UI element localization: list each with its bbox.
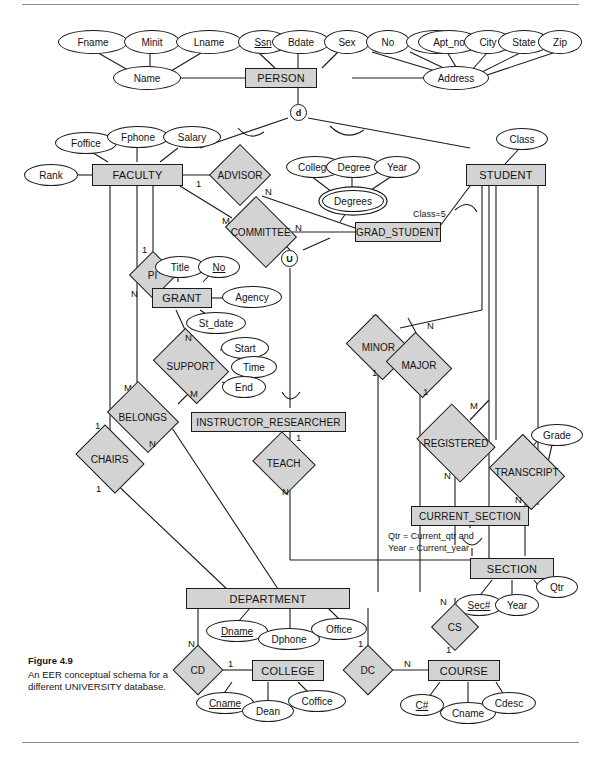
attribute-no: No	[366, 30, 410, 54]
cardinality-dc-dept: 1	[358, 638, 363, 649]
attribute-dean: Dean	[242, 700, 294, 722]
entity-person: PERSON	[245, 68, 317, 88]
cardinality-chairs-dept: 1	[96, 483, 101, 494]
cardinality-cs-course: 1	[446, 644, 451, 655]
union-category-circle: U	[281, 250, 298, 267]
attribute-name: Name	[113, 66, 181, 90]
cardinality-teach-section: N	[282, 486, 289, 497]
cardinality-transcript-bottom: N	[515, 494, 522, 505]
attribute-minit: Minit	[124, 30, 180, 54]
attribute-class: Class	[496, 128, 548, 150]
attribute-grant-no: No	[198, 256, 240, 278]
cardinality-advisor-faculty: 1	[196, 178, 201, 189]
figure-number: Figure 4.9	[28, 655, 198, 668]
attribute-zip: Zip	[538, 30, 582, 54]
attribute-fname: Fname	[58, 30, 128, 54]
attribute-rank: Rank	[24, 164, 78, 186]
constraint-year-line: Year = Current_year	[388, 542, 474, 554]
disjoint-specialization-circle: d	[290, 104, 307, 121]
cardinality-registered-top: M	[470, 400, 478, 411]
figure-caption-text: An EER conceptual schema for a different…	[28, 669, 168, 693]
attribute-cdesc: Cdesc	[482, 692, 536, 714]
cardinality-major-dept: 1	[423, 386, 428, 397]
cardinality-cd-college: 1	[228, 658, 233, 669]
cardinality-cs-section: N	[440, 596, 447, 607]
attribute-fphone: Fphone	[107, 126, 169, 148]
attribute-salary: Salary	[163, 126, 221, 148]
attribute-grade: Grade	[531, 424, 583, 446]
cardinality-teach-instres: 1	[296, 432, 301, 443]
cardinality-committee-grad: N	[295, 222, 302, 233]
attribute-office: Office	[311, 618, 367, 640]
cardinality-dc-course: N	[404, 658, 411, 669]
figure-caption: Figure 4.9 An EER conceptual schema for …	[28, 655, 198, 694]
attribute-lname: Lname	[176, 30, 242, 54]
cardinality-committee-faculty: M	[222, 215, 230, 226]
entity-section: SECTION	[470, 558, 554, 579]
entity-grant: GRANT	[152, 288, 212, 308]
cardinality-pi-grant: N	[131, 288, 138, 299]
constraint-current-section: Qtr = Current_qtr and Year = Current_yea…	[388, 530, 474, 554]
entity-student: STUDENT	[466, 164, 546, 186]
attribute-st-date: St_date	[186, 312, 246, 334]
cardinality-support-grant: N	[185, 332, 192, 343]
cardinality-support-grad: M	[190, 388, 198, 399]
entity-course: COURSE	[428, 660, 500, 681]
constraint-class-equals: Class=5	[413, 208, 446, 220]
attribute-year-degree: Year	[374, 156, 420, 178]
entity-current-section: CURRENT_SECTION	[411, 506, 529, 526]
entity-instructor-researcher: INSTRUCTOR_RESEARCHER	[191, 412, 346, 432]
attribute-degrees: Degrees	[322, 190, 384, 212]
cardinality-major-student: N	[427, 320, 434, 331]
cardinality-advisor-grad: N	[265, 186, 272, 197]
cardinality-minor-dept: 1	[372, 367, 377, 378]
attribute-bdate: Bdate	[272, 30, 330, 54]
entity-department: DEPARTMENT	[186, 588, 350, 609]
attribute-agency: Agency	[222, 286, 282, 308]
constraint-qtr-line: Qtr = Current_qtr and	[388, 530, 474, 542]
cardinality-registered-bottom: N	[444, 470, 451, 481]
attribute-sex: Sex	[324, 30, 370, 54]
attribute-qtr: Qtr	[536, 576, 578, 598]
attribute-year-section: Year	[495, 594, 539, 616]
entity-faculty: FACULTY	[92, 164, 183, 186]
attribute-c-no: C#	[400, 694, 444, 716]
cardinality-pi-faculty: 1	[142, 244, 147, 255]
entity-grad-student: GRAD_STUDENT	[355, 222, 441, 242]
cardinality-belongs-dept: N	[149, 438, 156, 449]
entity-college: COLLEGE	[252, 660, 324, 681]
attribute-time: Time	[231, 356, 277, 378]
attribute-end: End	[222, 376, 266, 398]
eer-diagram-page: Fname Minit Lname Name Ssn Bdate Sex No …	[0, 0, 601, 779]
attribute-coffice: Coffice	[288, 690, 346, 712]
attribute-address: Address	[423, 66, 489, 90]
